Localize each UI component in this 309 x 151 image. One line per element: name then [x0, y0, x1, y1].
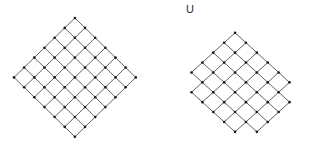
lattice-vertex	[23, 86, 26, 89]
lattice-vertex	[245, 121, 248, 124]
lattice-edge	[75, 48, 85, 58]
lattice-edge	[246, 82, 257, 92]
lattice-vertex	[53, 116, 56, 119]
lattice-vertex	[84, 27, 87, 30]
lattice-vertex	[266, 121, 269, 124]
lattice-vertex	[266, 101, 269, 104]
lattice-vertex	[201, 61, 204, 64]
lattice-edge	[85, 97, 95, 107]
lattice-edge	[55, 107, 65, 117]
lattice-vertex	[84, 46, 87, 49]
lattice-edge	[246, 72, 257, 82]
lattice-vertex	[94, 116, 97, 119]
lattice-edge	[202, 63, 213, 73]
lattice-edge	[257, 63, 268, 73]
lattice-edge	[213, 43, 224, 53]
lattice-vertex	[63, 46, 66, 49]
lattice-vertex	[234, 131, 237, 134]
lattice-edge	[34, 67, 44, 77]
lattice-vertex	[114, 76, 117, 79]
lattice-edge	[191, 72, 202, 82]
lattice-edge	[75, 87, 85, 97]
lattice-edge	[235, 72, 246, 82]
lattice-vertex	[234, 71, 237, 74]
lattice-edge	[257, 102, 268, 112]
lattice-edge	[14, 67, 24, 77]
lattice-vertex	[43, 46, 46, 49]
lattice-vertex	[43, 66, 46, 69]
lattice-edge	[44, 58, 54, 68]
lattice-edge	[235, 92, 246, 102]
lattice-vertex	[74, 36, 77, 39]
lattice-vertex	[74, 135, 77, 138]
lattice-edge	[95, 87, 105, 97]
lattice-vertex	[266, 81, 269, 84]
lattice-edge	[257, 122, 268, 132]
lattice-edge	[257, 53, 268, 63]
lattice-vertex	[74, 17, 77, 20]
lattice-vertex	[53, 96, 56, 99]
lattice-edge	[95, 58, 105, 68]
lattice-edge	[257, 92, 268, 102]
lattice-edge	[213, 63, 224, 73]
lattice-edge	[213, 112, 224, 122]
lattice-edge	[85, 87, 95, 97]
lattice-edge	[235, 122, 246, 132]
lattice-vertex	[23, 66, 26, 69]
lattice-edge	[224, 122, 235, 132]
figure-root: U	[0, 0, 309, 151]
lattice-edge	[55, 48, 65, 58]
lattice-edge	[115, 67, 125, 77]
lattice-vertex	[245, 61, 248, 64]
lattice-edge	[257, 72, 268, 82]
lattice-vertex	[114, 96, 117, 99]
lattice-edge	[24, 87, 34, 97]
lattice-edge	[65, 48, 75, 58]
lattice-edge	[95, 38, 105, 48]
lattice-edge	[268, 92, 279, 102]
lattice-edge	[115, 77, 125, 87]
lattice-vertex	[74, 116, 77, 119]
right-lattice-vertices	[190, 32, 291, 134]
lattice-edge	[246, 92, 257, 102]
lattice-edge	[44, 38, 54, 48]
lattice-edge	[75, 67, 85, 77]
lattice-edge	[105, 77, 115, 87]
lattice-vertex	[277, 111, 280, 114]
lattice-edge	[65, 58, 75, 68]
lattice-edge	[191, 63, 202, 73]
lattice-vertex	[288, 81, 291, 84]
lattice-vertex	[104, 106, 107, 109]
lattice-edge	[224, 43, 235, 53]
left-lattice-panel	[14, 18, 136, 137]
lattice-edge	[202, 102, 213, 112]
lattice-edge	[224, 53, 235, 63]
lattice-vertex	[104, 66, 107, 69]
lattice-edge	[268, 82, 279, 92]
lattice-vertex	[94, 36, 97, 39]
lattice-edge	[279, 102, 290, 112]
lattice-vertex	[277, 71, 280, 74]
lattice-edge	[34, 87, 44, 97]
lattice-edge	[115, 87, 125, 97]
lattice-vertex	[94, 76, 97, 79]
lattice-vertex	[94, 56, 97, 59]
lattice-edge	[224, 72, 235, 82]
lattice-edge	[213, 72, 224, 82]
lattice-vertex	[234, 51, 237, 54]
lattice-edge	[24, 58, 34, 68]
lattice-edge	[235, 102, 246, 112]
lattice-edge	[224, 102, 235, 112]
lattice-edge	[224, 33, 235, 43]
lattice-vertex	[53, 36, 56, 39]
lattice-vertex	[124, 66, 127, 69]
lattice-vertex	[63, 126, 66, 129]
lattice-edge	[202, 72, 213, 82]
lattice-edge	[279, 92, 290, 102]
lattice-vertex	[33, 76, 36, 79]
lattice-edge	[75, 127, 85, 137]
lattice-vertex	[33, 96, 36, 99]
lattice-edge	[224, 63, 235, 73]
lattice-vertex	[33, 56, 36, 59]
lattice-vertex	[212, 71, 215, 74]
